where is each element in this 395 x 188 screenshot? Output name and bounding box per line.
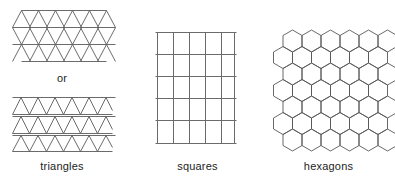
triangle-grid-bands xyxy=(12,96,116,152)
triangle-grid-full xyxy=(12,10,116,64)
caption-hexagons: hexagons xyxy=(262,160,395,172)
panel-squares: squares xyxy=(140,0,255,188)
hexagon-grid xyxy=(292,30,388,150)
or-label: or xyxy=(0,72,124,84)
panel-hexagons: hexagons xyxy=(262,0,395,188)
panel-triangles: or xyxy=(0,0,135,188)
caption-squares: squares xyxy=(140,160,255,172)
caption-triangles: triangles xyxy=(0,160,124,172)
square-grid xyxy=(155,30,237,146)
tessellation-figure: or xyxy=(0,0,395,188)
